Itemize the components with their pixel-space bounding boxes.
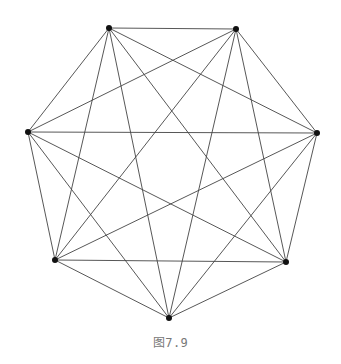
graph-edge-1-3	[236, 29, 286, 262]
graph-edge-4-6	[28, 132, 169, 318]
graph-edges	[28, 28, 317, 318]
graph-vertex-2	[314, 130, 320, 136]
graph-edge-5-6	[28, 132, 55, 260]
graph-edge-3-6	[28, 132, 286, 262]
graph-vertex-4	[166, 315, 172, 321]
figure-caption: 图7.9	[0, 333, 341, 350]
graph-edge-1-2	[236, 29, 317, 133]
graph-edge-4-5	[55, 260, 169, 318]
complete-graph-k7	[0, 0, 341, 364]
graph-vertex-3	[283, 259, 289, 265]
graph-edge-0-3	[109, 28, 286, 262]
graph-edge-0-2	[109, 28, 317, 133]
graph-vertex-5	[52, 257, 58, 263]
graph-vertex-0	[106, 25, 112, 31]
graph-edge-0-1	[109, 28, 236, 29]
graph-edge-1-6	[28, 29, 236, 132]
graph-vertex-1	[233, 26, 239, 32]
graph-edge-2-6	[28, 132, 317, 133]
graph-vertices	[25, 25, 320, 321]
graph-edge-3-4	[169, 262, 286, 318]
graph-vertex-6	[25, 129, 31, 135]
graph-edge-3-5	[55, 260, 286, 262]
graph-edge-0-4	[109, 28, 169, 318]
graph-edge-2-5	[55, 133, 317, 260]
